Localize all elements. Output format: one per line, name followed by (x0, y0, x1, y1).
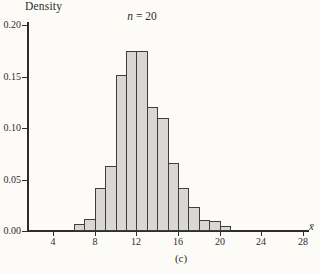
x-tick-label: 28 (291, 236, 315, 247)
y-axis-label: Density (25, 0, 62, 12)
x-tick-label: 12 (124, 236, 148, 247)
y-tick (22, 180, 28, 181)
title-equals: = (136, 10, 143, 22)
histogram-bar (220, 226, 231, 231)
y-tick-label: 0.20 (0, 19, 21, 30)
x-tick-label: 16 (166, 236, 190, 247)
title-symbol-n: n (127, 10, 133, 22)
x-axis-label-xbar: x̄ (309, 220, 314, 232)
y-tick-label: 0.05 (0, 174, 21, 185)
title-value: 20 (145, 10, 157, 22)
y-tick (22, 77, 28, 78)
y-tick-label: 0.15 (0, 71, 21, 82)
y-tick (22, 128, 28, 129)
x-tick-label: 24 (249, 236, 273, 247)
histogram-figure: Density n = 20 4812162024280.000.050.100… (0, 0, 320, 275)
x-tick-label: 20 (208, 236, 232, 247)
figure-caption: (c) (168, 252, 194, 264)
y-axis-line (27, 22, 29, 232)
x-tick-label: 4 (41, 236, 65, 247)
chart-title: n = 20 (112, 10, 172, 22)
y-tick (22, 231, 28, 232)
y-tick (22, 25, 28, 26)
x-tick-label: 8 (83, 236, 107, 247)
y-tick-label: 0.10 (0, 122, 21, 133)
y-tick-label: 0.00 (0, 225, 21, 236)
